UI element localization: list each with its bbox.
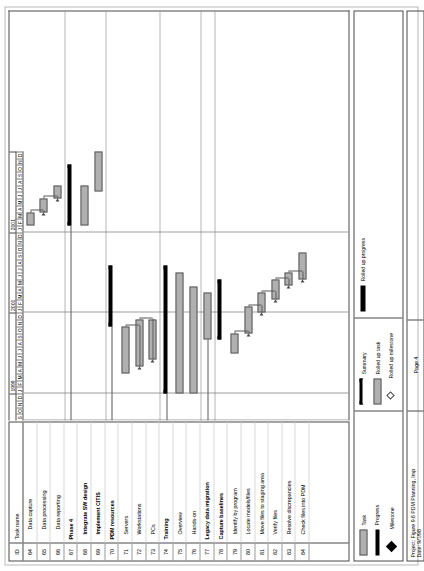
- row-separator: [214, 11, 215, 420]
- task-row-name[interactable]: Resolve discrepancies: [282, 422, 296, 542]
- task-row-name[interactable]: Overview: [173, 422, 187, 542]
- task-row-name[interactable]: Integrate SW design: [77, 422, 91, 542]
- task-row-id[interactable]: 84: [295, 543, 309, 560]
- gantt-task-bar[interactable]: [94, 151, 102, 191]
- legend-item: Rolled up progress: [359, 237, 365, 311]
- task-row-id[interactable]: 69: [91, 543, 105, 560]
- task-row-id[interactable]: 67: [64, 543, 78, 560]
- screenshot-canvas: ID 6465666768697071727374757677787980818…: [0, 0, 424, 571]
- milestone-diamond-icon: [385, 540, 396, 551]
- timescale-year: 2000: [9, 232, 16, 313]
- task-row-name[interactable]: Data processing: [37, 422, 51, 542]
- task-row-id[interactable]: 82: [268, 543, 282, 560]
- row-separator: [64, 11, 65, 420]
- task-row-id[interactable]: 80: [241, 543, 255, 560]
- gantt-task-bar[interactable]: [121, 326, 129, 373]
- gantt-task-bar[interactable]: [26, 212, 34, 225]
- task-row-id[interactable]: 81: [255, 543, 269, 560]
- timescale-month: S: [16, 171, 23, 178]
- task-row-name[interactable]: Move files to staging area: [255, 422, 269, 542]
- cross-page-link: [70, 225, 71, 420]
- legend-label: Summary: [360, 352, 366, 374]
- rolled-up-progress-swatch: [360, 285, 365, 311]
- task-row-id[interactable]: 72: [132, 543, 146, 560]
- timescale-month: O: [16, 326, 23, 333]
- task-row-id[interactable]: 77: [200, 543, 214, 560]
- task-row-name[interactable]: PDM resources: [105, 422, 119, 542]
- task-table-id-column: ID 6465666768697071727374757677787980818…: [9, 542, 348, 560]
- task-row-name[interactable]: Data capture: [23, 422, 37, 542]
- legend: TaskProgressMilestoneSummaryRolled up ta…: [353, 10, 403, 561]
- legend-item: Rolled up task: [373, 341, 381, 404]
- task-row-name[interactable]: Training: [159, 422, 173, 542]
- task-row-id[interactable]: 70: [105, 543, 119, 560]
- dependency-arrow-icon: [137, 366, 141, 369]
- gantt-summary-bar[interactable]: [163, 265, 167, 393]
- legend-label: Rolled up task: [374, 341, 380, 374]
- task-row-id[interactable]: 66: [50, 543, 64, 560]
- legend-label: Rolled up milestone: [387, 332, 393, 378]
- timescale-month: J: [16, 265, 23, 272]
- task-row-id[interactable]: 83: [282, 543, 296, 560]
- gantt-task-bar[interactable]: [80, 185, 88, 225]
- task-row-id[interactable]: 71: [118, 543, 132, 560]
- timescale-month: F: [16, 299, 23, 306]
- legend-item: Summary: [359, 352, 367, 404]
- dependency-arrow-icon: [273, 299, 277, 302]
- gantt-task-bar[interactable]: [189, 286, 197, 394]
- gantt-summary-bar[interactable]: [108, 265, 112, 326]
- gantt-task-bar[interactable]: [203, 292, 211, 339]
- task-row-name[interactable]: Workstations: [132, 422, 146, 542]
- task-row-id[interactable]: 78: [214, 543, 228, 560]
- cross-page-link: [111, 326, 112, 420]
- task-table: ID 6465666768697071727374757677787980818…: [8, 421, 349, 561]
- task-row-name[interactable]: Verify files: [268, 422, 282, 542]
- task-row-name[interactable]: Data reporting: [50, 422, 64, 542]
- footer-project-line: Project: Figure 9.6 PDM Planning, Imp: [409, 411, 415, 557]
- dependency-link: [302, 271, 303, 279]
- task-row-name[interactable]: Phase 4: [64, 422, 78, 542]
- task-row-name[interactable]: Locate models/files: [241, 422, 255, 542]
- gantt-task-bar[interactable]: [244, 306, 252, 333]
- timescale-month: F: [16, 218, 23, 225]
- task-row-name[interactable]: PCs: [146, 422, 160, 542]
- gantt-task-bar[interactable]: [175, 272, 183, 393]
- dependency-link: [43, 195, 57, 196]
- gantt-summary-bar[interactable]: [67, 164, 71, 225]
- dependency-arrow-icon: [150, 359, 154, 362]
- task-row-name[interactable]: Capture baselines: [214, 422, 228, 542]
- task-row-id[interactable]: 73: [146, 543, 160, 560]
- timescale-month: S: [16, 413, 23, 420]
- task-row-id[interactable]: 79: [227, 543, 241, 560]
- legend-label: Milestone: [388, 507, 394, 529]
- summary-bracket-swatch: [359, 378, 367, 404]
- task-row-name[interactable]: Implement CITIS: [91, 422, 105, 542]
- task-row-id[interactable]: 74: [159, 543, 173, 560]
- task-row-id[interactable]: 76: [186, 543, 200, 560]
- task-row-id[interactable]: 75: [173, 543, 187, 560]
- timescale-month: M: [16, 359, 23, 366]
- timescale-month: S: [16, 252, 23, 259]
- gantt-task-bar[interactable]: [230, 333, 238, 353]
- footer-date-line: Date: 9/7/98: [415, 411, 421, 557]
- task-row-name[interactable]: Legacy data migration: [200, 422, 214, 542]
- dependency-link: [288, 278, 289, 286]
- task-row-name[interactable]: Servers: [118, 422, 132, 542]
- timescale-month: J: [16, 386, 23, 393]
- cross-page-link: [207, 339, 208, 420]
- task-row-name[interactable]: Identify by program: [227, 422, 241, 542]
- timescale-month: A: [16, 286, 23, 293]
- timescale-month: D: [16, 393, 23, 400]
- timescale-month: A: [16, 259, 23, 266]
- task-bar-swatch: [359, 529, 367, 555]
- task-row-name[interactable]: Hands-on: [186, 422, 200, 542]
- gantt-printout-page: ID 6465666768697071727374757677787980818…: [0, 0, 424, 571]
- timescale-month: O: [16, 245, 23, 252]
- task-row-id[interactable]: 64: [23, 543, 37, 560]
- timescale-month: M: [16, 279, 23, 286]
- task-row-id[interactable]: 68: [77, 543, 91, 560]
- task-row-id[interactable]: 65: [37, 543, 51, 560]
- task-row-name[interactable]: Check files into PDM: [295, 422, 309, 542]
- gantt-summary-bar[interactable]: [217, 279, 221, 340]
- dependency-arrow-icon: [246, 333, 250, 336]
